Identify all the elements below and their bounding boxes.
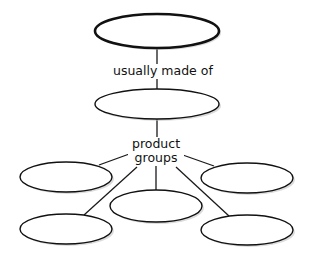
- product-group-node-left-top[interactable]: [20, 162, 112, 192]
- link-label-product-groups: product groups: [128, 137, 184, 165]
- product-group-node-right-top[interactable]: [201, 163, 293, 193]
- link-label-product: product: [128, 137, 184, 151]
- product-group-node-center[interactable]: [110, 190, 202, 222]
- concept-map: [0, 0, 310, 260]
- composition-node[interactable]: [95, 89, 219, 119]
- link-label-usually-made-of: usually made of: [112, 64, 204, 78]
- link-label-groups: groups: [128, 151, 184, 165]
- product-group-node-right-bottom[interactable]: [201, 215, 293, 245]
- root-concept-node[interactable]: [95, 14, 219, 48]
- edge-groups-to-right-top: [180, 154, 214, 166]
- product-group-node-left-bottom[interactable]: [20, 214, 112, 244]
